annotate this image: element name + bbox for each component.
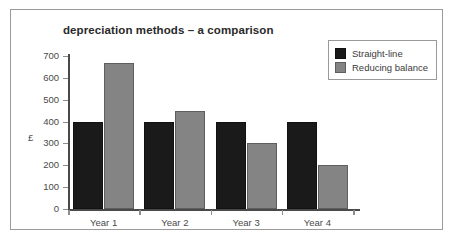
bar-year-1-reducing-balance xyxy=(104,63,134,209)
y-axis-tick-label: 100 xyxy=(43,181,59,192)
x-axis-tick xyxy=(139,210,141,215)
legend-swatch-icon xyxy=(335,62,346,73)
x-axis-label: Year 4 xyxy=(282,217,353,228)
x-axis-tick xyxy=(68,210,70,215)
x-axis-tick xyxy=(282,210,284,215)
legend-item: Straight-line xyxy=(335,46,428,60)
bar-year-4-reducing-balance xyxy=(318,165,348,209)
x-axis-tick xyxy=(353,210,355,215)
y-axis-tick-label: 500 xyxy=(43,94,59,105)
chart-title: depreciation methods – a comparison xyxy=(63,24,274,36)
plot-area xyxy=(68,56,353,209)
x-axis-label: Year 1 xyxy=(68,217,139,228)
y-axis-tick-label: 700 xyxy=(43,50,59,61)
bar-year-3-reducing-balance xyxy=(247,143,277,209)
bar-year-3-straight-line xyxy=(216,122,246,209)
legend-label: Straight-line xyxy=(352,48,403,59)
x-axis-tick xyxy=(211,210,213,215)
bar-year-2-reducing-balance xyxy=(175,111,205,209)
bar-year-1-straight-line xyxy=(73,122,103,209)
chart-legend: Straight-lineReducing balance xyxy=(328,40,437,80)
x-axis-label: Year 3 xyxy=(211,217,282,228)
y-axis-tick-label: 400 xyxy=(43,116,59,127)
legend-swatch-icon xyxy=(335,48,346,59)
bar-year-2-straight-line xyxy=(144,122,174,209)
x-axis-label: Year 2 xyxy=(139,217,210,228)
chart-frame: depreciation methods – a comparison £ 01… xyxy=(10,9,443,230)
x-axis-line xyxy=(68,209,360,211)
y-axis-tick-label: 0 xyxy=(54,203,59,214)
bar-year-4-straight-line xyxy=(287,122,317,209)
y-axis-tick-label: 300 xyxy=(43,137,59,148)
legend-label: Reducing balance xyxy=(352,62,428,73)
y-axis-tick-label: 200 xyxy=(43,159,59,170)
y-axis-tick-label: 600 xyxy=(43,72,59,83)
legend-item: Reducing balance xyxy=(335,60,428,74)
y-axis-title: £ xyxy=(28,132,33,143)
